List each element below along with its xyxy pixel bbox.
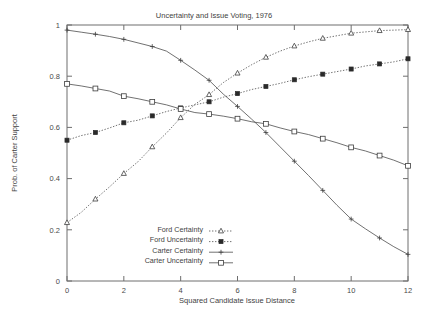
marker-open-square — [219, 260, 224, 265]
legend-label-ford-certainty: Ford Certainty — [157, 225, 203, 234]
y-tick-label: 0.4 — [50, 174, 60, 183]
marker-filled-square — [406, 57, 410, 61]
series-line — [67, 30, 408, 254]
x-tick-label: 12 — [404, 286, 412, 295]
marker-open-triangle — [121, 171, 126, 176]
marker-open-square — [178, 107, 183, 112]
marker-filled-square — [150, 114, 154, 118]
marker-plus — [178, 58, 183, 63]
marker-filled-square — [122, 121, 126, 125]
marker-filled-square — [264, 84, 268, 88]
marker-open-triangle — [207, 92, 212, 97]
marker-plus — [406, 252, 411, 257]
series-markers — [65, 28, 411, 257]
marker-open-square — [65, 81, 70, 86]
y-axis-label: Prob. of Carter Support — [10, 113, 19, 191]
marker-open-square — [235, 116, 240, 121]
axis-labels: Squared Candidate Issue Distance Prob. o… — [10, 113, 295, 305]
y-tick-label: 0 — [56, 277, 60, 286]
marker-filled-square — [219, 240, 223, 244]
marker-open-triangle — [349, 30, 354, 35]
y-tick-label: 0.2 — [50, 226, 60, 235]
marker-plus — [219, 250, 224, 255]
legend-label-ford-uncertainty: Ford Uncertainty — [150, 235, 204, 244]
series-line — [67, 30, 408, 223]
marker-open-square — [377, 153, 382, 158]
marker-filled-square — [321, 72, 325, 76]
x-tick-label: 6 — [235, 286, 239, 295]
marker-open-triangle — [405, 27, 410, 32]
legend-label-carter-certainty: Carter Certainty — [152, 246, 203, 255]
marker-filled-square — [378, 62, 382, 66]
x-axis-ticks: 024681012 — [65, 25, 412, 295]
marker-open-triangle — [64, 220, 69, 225]
chart-title-group: Uncertainty and Issue Voting, 1976 — [156, 11, 272, 20]
marker-filled-square — [235, 92, 239, 96]
plot-frame — [67, 25, 408, 281]
marker-open-square — [349, 145, 354, 150]
x-tick-label: 4 — [179, 286, 183, 295]
marker-open-square — [93, 86, 98, 91]
series-carter-certainty — [65, 28, 411, 257]
marker-filled-square — [349, 67, 353, 71]
marker-plus — [377, 236, 382, 241]
marker-filled-square — [207, 100, 211, 104]
y-tick-label: 0.6 — [50, 123, 60, 132]
marker-plus — [121, 37, 126, 42]
marker-open-triangle — [178, 115, 183, 120]
y-tick-label: 1 — [56, 21, 60, 30]
marker-plus — [93, 32, 98, 37]
y-axis-ticks: 00.20.40.60.81 — [50, 21, 408, 286]
y-tick-label: 0.8 — [50, 72, 60, 81]
chart-title: Uncertainty and Issue Voting, 1976 — [156, 11, 272, 20]
legend-label-carter-uncertainty: Carter Uncertainty — [145, 256, 204, 265]
marker-filled-square — [292, 78, 296, 82]
x-tick-label: 2 — [122, 286, 126, 295]
x-tick-label: 10 — [347, 286, 355, 295]
marker-open-square — [207, 112, 212, 117]
marker-open-triangle — [150, 144, 155, 149]
marker-open-triangle — [218, 228, 223, 233]
marker-filled-square — [65, 138, 69, 142]
marker-open-square — [150, 99, 155, 104]
marker-filled-square — [93, 130, 97, 134]
x-tick-label: 8 — [292, 286, 296, 295]
chart-canvas: Uncertainty and Issue Voting, 1976 00.20… — [0, 0, 427, 317]
marker-plus — [150, 44, 155, 49]
marker-open-square — [320, 136, 325, 141]
marker-open-square — [121, 94, 126, 99]
x-axis-label: Squared Candidate Issue Distance — [179, 296, 295, 305]
series-line — [67, 84, 408, 166]
axes-frame — [67, 25, 408, 281]
chart-legend: Ford CertaintyFord UncertaintyCarter Cer… — [145, 225, 233, 266]
x-tick-label: 0 — [65, 286, 69, 295]
series-layer — [64, 27, 410, 257]
marker-open-triangle — [235, 70, 240, 75]
marker-open-square — [292, 129, 297, 134]
marker-open-square — [264, 121, 269, 126]
marker-open-square — [406, 163, 411, 168]
marker-plus — [65, 28, 70, 33]
marker-open-triangle — [93, 196, 98, 201]
chart-figure: Uncertainty and Issue Voting, 1976 00.20… — [0, 0, 427, 317]
